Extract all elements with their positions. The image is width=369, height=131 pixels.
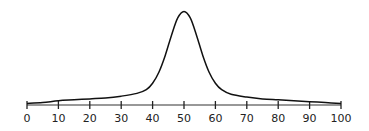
- x-tick-label-100: 100: [331, 112, 352, 125]
- x-axis-tick-labels: 0102030405060708090100: [24, 112, 352, 125]
- x-tick-label-30: 30: [114, 112, 128, 125]
- x-tick-label-90: 90: [303, 112, 317, 125]
- x-tick-label-80: 80: [271, 112, 285, 125]
- x-tick-label-50: 50: [177, 112, 191, 125]
- x-tick-label-70: 70: [240, 112, 254, 125]
- x-tick-label-60: 60: [208, 112, 222, 125]
- x-tick-label-10: 10: [51, 112, 65, 125]
- chart: 0102030405060708090100: [0, 0, 369, 131]
- x-tick-label-20: 20: [83, 112, 97, 125]
- x-tick-label-40: 40: [146, 112, 160, 125]
- series-line-0: [27, 12, 341, 104]
- series-group: [27, 12, 341, 104]
- x-tick-label-0: 0: [24, 112, 31, 125]
